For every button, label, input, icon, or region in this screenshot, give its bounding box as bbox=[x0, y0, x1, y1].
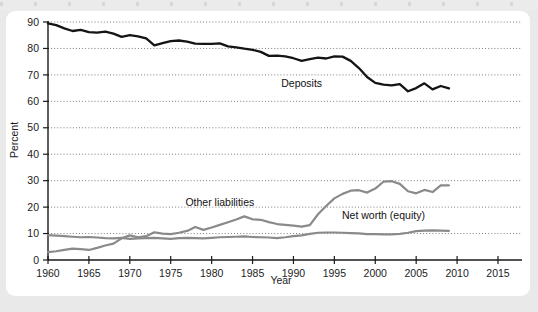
y-tick-label-80: 80 bbox=[27, 42, 39, 54]
y-tick-label-10: 10 bbox=[27, 227, 39, 239]
chart-plot-area: 0102030405060708090 19601965197019751980… bbox=[0, 0, 538, 312]
x-tick-label-1970: 1970 bbox=[118, 267, 142, 279]
x-tick-label-1965: 1965 bbox=[77, 267, 101, 279]
x-tick-label-1995: 1995 bbox=[323, 267, 347, 279]
x-tick-label-2015: 2015 bbox=[486, 267, 510, 279]
x-tick-label-1985: 1985 bbox=[241, 267, 265, 279]
y-tick-label-0: 0 bbox=[33, 254, 39, 266]
x-tick-label-2005: 2005 bbox=[405, 267, 429, 279]
y-tick-label-90: 90 bbox=[27, 16, 39, 28]
y-tick-label-20: 20 bbox=[27, 201, 39, 213]
x-tick-label-1980: 1980 bbox=[200, 267, 224, 279]
y-axis-title: Percent bbox=[8, 122, 20, 158]
series-line-net-worth-equity bbox=[48, 230, 449, 238]
y-tick-label-30: 30 bbox=[27, 174, 39, 186]
series-label-net-worth-equity: Net worth (equity) bbox=[342, 209, 425, 221]
series-line-deposits bbox=[48, 23, 449, 91]
y-tick-label-40: 40 bbox=[27, 148, 39, 160]
y-tick-label-70: 70 bbox=[27, 69, 39, 81]
x-tick-label-2010: 2010 bbox=[445, 267, 469, 279]
y-tick-label-50: 50 bbox=[27, 121, 39, 133]
figure-root: 0102030405060708090 19601965197019751980… bbox=[0, 0, 538, 312]
x-axis-title: Year bbox=[270, 274, 292, 286]
y-tick-label-60: 60 bbox=[27, 95, 39, 107]
series-label-other-liabilities: Other liabilities bbox=[185, 196, 254, 208]
x-tick-label-2000: 2000 bbox=[364, 267, 388, 279]
gridlines bbox=[48, 22, 522, 234]
series-annotations: DepositsOther liabilitiesNet worth (equi… bbox=[185, 77, 425, 221]
line-chart-svg: 0102030405060708090 19601965197019751980… bbox=[0, 0, 538, 312]
x-tick-label-1975: 1975 bbox=[159, 267, 183, 279]
series-label-deposits: Deposits bbox=[281, 77, 322, 89]
y-axis: 0102030405060708090 bbox=[27, 16, 49, 266]
x-tick-label-1960: 1960 bbox=[36, 267, 60, 279]
